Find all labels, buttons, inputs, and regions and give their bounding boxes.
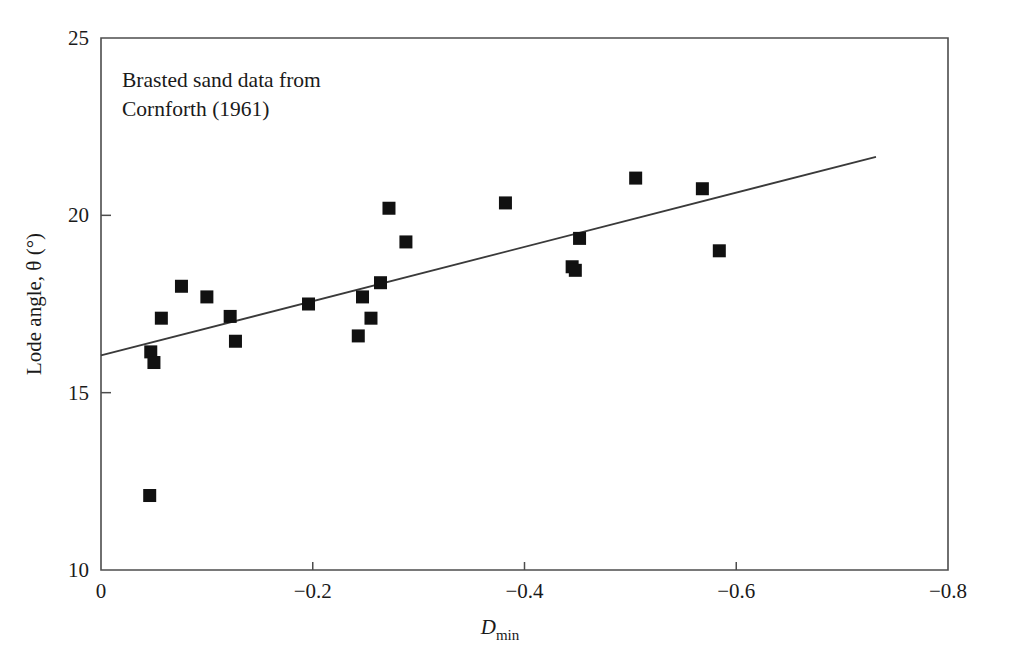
trend-line-segment xyxy=(101,157,876,356)
data-point xyxy=(147,356,160,369)
y-axis-ticks xyxy=(101,215,111,392)
data-point xyxy=(155,312,168,325)
data-point xyxy=(569,264,582,277)
x-tick-label-1: −0.2 xyxy=(294,579,332,603)
data-point xyxy=(399,235,412,248)
data-point xyxy=(696,182,709,195)
data-point xyxy=(200,290,213,303)
data-point xyxy=(499,196,512,209)
y-tick-label-0: 10 xyxy=(68,558,89,582)
data-point xyxy=(374,276,387,289)
y-axis-tick-labels: 10152025 xyxy=(68,26,89,582)
svg-text:Dmin: Dmin xyxy=(480,615,520,643)
data-point xyxy=(629,172,642,185)
x-axis-title-subscript: min xyxy=(496,627,520,643)
data-point xyxy=(224,310,237,323)
data-point xyxy=(713,244,726,257)
x-axis-title: Dmin xyxy=(480,615,520,643)
x-tick-label-4: −0.8 xyxy=(929,579,967,603)
y-axis-title-text: Lode angle, θ (°) xyxy=(22,233,46,375)
x-tick-label-2: −0.4 xyxy=(505,579,544,603)
data-point xyxy=(352,329,365,342)
chart-figure: 0−0.2−0.4−0.6−0.8 10152025 Brasted sand … xyxy=(0,0,1009,665)
data-point xyxy=(356,290,369,303)
data-point xyxy=(573,232,586,245)
y-tick-label-2: 20 xyxy=(68,203,89,227)
x-axis-title-base: D xyxy=(480,615,496,639)
y-tick-label-1: 15 xyxy=(68,381,89,405)
plot-annotation: Brasted sand data from Cornforth (1961) xyxy=(122,68,321,121)
annotation-line-2: Cornforth (1961) xyxy=(122,97,270,121)
y-axis-title: Lode angle, θ (°) xyxy=(22,233,46,375)
data-point xyxy=(229,335,242,348)
scatter-plot: 0−0.2−0.4−0.6−0.8 10152025 Brasted sand … xyxy=(0,0,1009,665)
x-axis-tick-labels: 0−0.2−0.4−0.6−0.8 xyxy=(96,579,967,603)
x-axis-ticks xyxy=(313,562,737,570)
x-tick-label-3: −0.6 xyxy=(717,579,755,603)
data-points xyxy=(143,172,726,502)
trend-line xyxy=(101,157,876,356)
annotation-line-1: Brasted sand data from xyxy=(122,68,321,92)
x-tick-label-0: 0 xyxy=(96,579,107,603)
data-point xyxy=(175,280,188,293)
data-point xyxy=(382,202,395,215)
data-point xyxy=(302,298,315,311)
data-point xyxy=(364,312,377,325)
y-tick-label-3: 25 xyxy=(68,26,89,50)
data-point xyxy=(143,489,156,502)
